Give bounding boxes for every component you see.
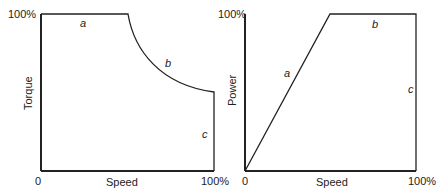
torque-y-max-label: 100%: [8, 8, 36, 20]
torque-curve: [41, 14, 214, 171]
torque-region-c-label: c: [202, 128, 208, 140]
power-y-max-label: 100%: [218, 8, 246, 20]
power-region-b-label: b: [372, 18, 378, 30]
power-x-max-label: 100%: [408, 175, 436, 187]
torque-y-label: Torque: [22, 76, 34, 110]
power-y-label: Power: [226, 74, 238, 106]
power-curve: [245, 14, 416, 171]
diagram-canvas: 100% 0 100% Speed Torque a b c 100% 0 10…: [0, 0, 443, 195]
torque-x-max-label: 100%: [201, 175, 229, 187]
power-x-label: Speed: [316, 176, 348, 188]
torque-region-b-label: b: [165, 57, 171, 69]
torque-region-a-label: a: [80, 17, 86, 29]
power-region-c-label: c: [408, 83, 414, 95]
power-x-min-label: 0: [242, 175, 248, 187]
power-speed-chart: 100% 0 100% Speed Power a b c: [218, 8, 436, 188]
torque-x-min-label: 0: [35, 175, 41, 187]
torque-x-label: Speed: [106, 176, 138, 188]
power-region-a-label: a: [284, 67, 290, 79]
torque-speed-chart: 100% 0 100% Speed Torque a b c: [8, 8, 229, 188]
